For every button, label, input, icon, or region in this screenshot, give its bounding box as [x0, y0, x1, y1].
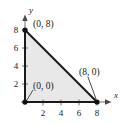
x-tick-label-6: 6 [77, 108, 82, 118]
vertex-point-0-0 [22, 99, 27, 104]
graph-svg: 2 4 6 8 2 4 6 8 y x (0, 8) (8, 0) (0, 0) [0, 0, 121, 124]
x-tick-label-8: 8 [95, 108, 100, 118]
x-tick-label-2: 2 [41, 108, 46, 118]
vertex-point-8-0 [94, 99, 99, 104]
y-tick-label-4: 4 [14, 61, 19, 71]
coordinate-plane-figure: 2 4 6 8 2 4 6 8 y x (0, 8) (8, 0) (0, 0) [0, 0, 121, 124]
y-axis-label: y [28, 5, 33, 15]
vertex-point-0-8 [22, 27, 27, 32]
y-tick-label-2: 2 [14, 79, 19, 89]
y-tick-label-8: 8 [14, 25, 19, 35]
y-axis-arrow-icon [22, 15, 27, 22]
point-label-0-8: (0, 8) [33, 19, 54, 30]
point-label-0-0: (0, 0) [33, 81, 54, 92]
x-axis-label: x [113, 90, 118, 100]
x-tick-label-4: 4 [59, 108, 64, 118]
y-tick-label-6: 6 [14, 43, 19, 53]
point-label-8-0: (8, 0) [79, 67, 100, 78]
x-axis-arrow-icon [105, 99, 112, 104]
